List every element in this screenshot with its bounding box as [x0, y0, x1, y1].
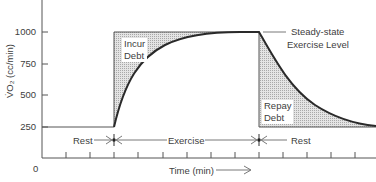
- phase-rest-2-label: Rest: [290, 135, 312, 146]
- y-ticks: [42, 32, 48, 127]
- y-tick-label-1000: 1000: [6, 26, 36, 37]
- repay-debt-line1: Repay: [264, 100, 291, 112]
- steady-state-label-line1: Steady-state: [291, 26, 344, 37]
- origin-label: 0: [33, 163, 38, 174]
- steady-state-label-line2: Exercise Level: [287, 39, 349, 50]
- x-ticks: [66, 152, 355, 158]
- y-axis-label: V̇O₂ (cc/min): [4, 44, 15, 98]
- exercise-end-marker: [257, 138, 261, 142]
- y-tick-label-250: 250: [6, 121, 36, 132]
- phase-rest-1-label: Rest: [72, 135, 94, 146]
- incur-debt-line2: Debt: [124, 50, 145, 62]
- repay-debt-line2: Debt: [264, 112, 291, 124]
- repay-debt-label: Repay Debt: [262, 100, 293, 124]
- x-axis-label: Time (min): [169, 165, 214, 176]
- incur-debt-label: Incur Debt: [122, 38, 147, 62]
- time-arrow: [216, 166, 251, 174]
- phase-exercise-label: Exercise: [167, 135, 205, 146]
- exercise-start-marker: [112, 138, 116, 142]
- incur-debt-line1: Incur: [124, 38, 145, 50]
